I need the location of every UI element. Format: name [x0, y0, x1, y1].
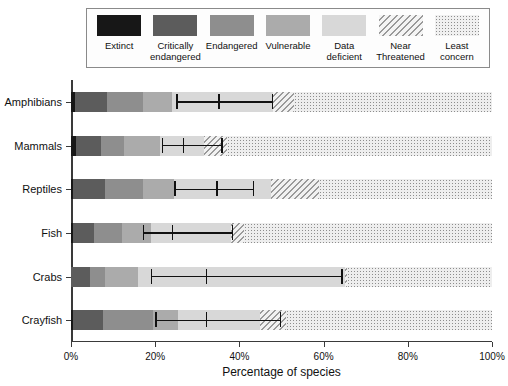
- bar-crayfish[interactable]: [71, 310, 492, 330]
- legend-item[interactable]: Near Threatened: [373, 15, 429, 62]
- error-bar-amphibians: [176, 92, 273, 112]
- error-bar-reptiles: [174, 179, 254, 199]
- x-tick-label: 40%: [229, 351, 249, 362]
- bar-segment-critically-endangered: [76, 136, 101, 156]
- x-tick: [155, 342, 156, 347]
- x-tick-label: 0%: [64, 351, 78, 362]
- swatch-extinct-icon: [97, 15, 141, 36]
- bar-segment-endangered: [103, 310, 154, 330]
- x-tick: [408, 342, 409, 347]
- bar-segment-vulnerable: [124, 136, 160, 156]
- bar-amphibians[interactable]: [71, 92, 492, 112]
- bar-segment-least-concern: [319, 179, 492, 199]
- error-bar-line: [162, 145, 223, 146]
- bar-fish[interactable]: [71, 223, 492, 243]
- y-tick-label-mammals: Mammals: [14, 140, 62, 152]
- error-bar-cap-upper: [272, 94, 273, 109]
- x-tick-label: 80%: [398, 351, 418, 362]
- swatch-data-deficient-icon: [322, 15, 366, 36]
- swatch-least-concern-icon: [435, 15, 479, 36]
- error-bar-crabs: [151, 267, 343, 287]
- legend-label: Critically endangered: [150, 40, 201, 62]
- bar-segment-endangered: [101, 136, 124, 156]
- x-tick: [71, 342, 72, 347]
- error-bar-center-marker: [216, 181, 217, 196]
- legend-label: Extinct: [105, 40, 134, 51]
- x-tick-label: 60%: [314, 351, 334, 362]
- error-bar-center-marker: [206, 269, 207, 284]
- error-bar-crayfish: [155, 310, 281, 330]
- legend-label: Endangered: [206, 40, 258, 51]
- error-bar-line: [174, 189, 254, 190]
- y-tick-label-crabs: Crabs: [33, 271, 62, 283]
- bar-segment-endangered: [90, 267, 105, 287]
- bar-segment-least-concern: [227, 136, 492, 156]
- error-bar-cap-upper: [341, 269, 342, 284]
- error-bar-cap-lower: [151, 269, 152, 284]
- bar-segment-least-concern: [244, 223, 492, 243]
- x-axis-label: Percentage of species: [71, 365, 492, 379]
- legend-label: Data deficient: [327, 40, 362, 62]
- error-bar-cap-lower: [176, 94, 177, 109]
- legend-label: Least concern: [440, 40, 474, 62]
- bar-segment-endangered: [105, 179, 143, 199]
- error-bar-center-marker: [206, 312, 207, 327]
- error-bar-cap-upper: [232, 225, 233, 240]
- swatch-endangered-icon: [210, 15, 254, 36]
- error-bar-cap-lower: [174, 181, 175, 196]
- bar-segment-least-concern: [294, 92, 492, 112]
- y-tick-label-reptiles: Reptiles: [22, 183, 62, 195]
- bar-reptiles[interactable]: [71, 179, 492, 199]
- error-bar-mammals: [162, 136, 223, 156]
- error-bar-fish: [143, 223, 234, 243]
- error-bar-line: [176, 101, 273, 102]
- plot-area: 0%20%40%60%80%100% AmphibiansMammalsRept…: [71, 80, 492, 342]
- bar-segment-vulnerable: [143, 92, 172, 112]
- bar-segment-least-concern: [286, 310, 492, 330]
- y-tick-label-fish: Fish: [41, 227, 62, 239]
- x-tick: [239, 342, 240, 347]
- bar-segment-critically-endangered: [73, 310, 102, 330]
- error-bar-cap-lower: [143, 225, 144, 240]
- bar-mammals[interactable]: [71, 136, 492, 156]
- swatch-near-threatened-icon: [379, 15, 423, 36]
- error-bar-cap-upper: [221, 138, 222, 153]
- bar-segment-critically-endangered: [73, 179, 105, 199]
- bar-segment-least-concern: [347, 267, 492, 287]
- legend-item[interactable]: Least concern: [429, 15, 485, 62]
- bar-segment-vulnerable: [143, 179, 175, 199]
- x-tick-label: 100%: [479, 351, 505, 362]
- bar-segment-endangered: [94, 223, 121, 243]
- error-bar-cap-lower: [162, 138, 163, 153]
- legend-item[interactable]: Extinct: [91, 15, 147, 51]
- legend-item[interactable]: Endangered: [204, 15, 260, 51]
- chart-legend: ExtinctCritically endangeredEndangeredVu…: [86, 8, 490, 68]
- y-tick-label-crayfish: Crayfish: [22, 314, 62, 326]
- chart-root: ExtinctCritically endangeredEndangeredVu…: [0, 0, 508, 386]
- x-axis-line: [71, 341, 492, 343]
- error-bar-line: [143, 232, 234, 233]
- swatch-critically-endangered-icon: [153, 15, 197, 36]
- x-tick-label: 20%: [145, 351, 165, 362]
- swatch-vulnerable-icon: [266, 15, 310, 36]
- y-axis-line: [71, 80, 73, 342]
- error-bar-line: [155, 320, 281, 321]
- error-bar-cap-upper: [280, 312, 281, 327]
- bar-segment-critically-endangered: [73, 223, 94, 243]
- x-tick: [492, 342, 493, 347]
- bar-segment-critically-endangered: [71, 267, 90, 287]
- bar-segment-near-threatened: [271, 179, 319, 199]
- error-bar-center-marker: [172, 225, 173, 240]
- legend-item[interactable]: Critically endangered: [147, 15, 203, 62]
- error-bar-center-marker: [218, 94, 219, 109]
- error-bar-cap-lower: [155, 312, 156, 327]
- error-bar-line: [151, 276, 343, 277]
- bar-segment-near-threatened: [273, 92, 294, 112]
- legend-label: Vulnerable: [265, 40, 310, 51]
- legend-item[interactable]: Vulnerable: [260, 15, 316, 51]
- y-tick-label-amphibians: Amphibians: [5, 96, 62, 108]
- error-bar-cap-upper: [253, 181, 254, 196]
- error-bar-center-marker: [183, 138, 184, 153]
- legend-label: Near Threatened: [376, 40, 425, 62]
- legend-item[interactable]: Data deficient: [316, 15, 372, 62]
